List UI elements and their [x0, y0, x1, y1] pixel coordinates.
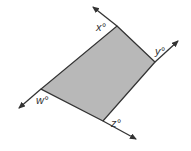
- angle-label-w: w°: [36, 94, 49, 106]
- angle-label-x: x°: [95, 21, 107, 33]
- parallelogram-shape: [41, 26, 155, 121]
- angle-label-y: y°: [154, 45, 166, 57]
- parallelogram-diagram: x° y° w° z°: [0, 0, 191, 151]
- angle-label-z: z°: [110, 117, 122, 129]
